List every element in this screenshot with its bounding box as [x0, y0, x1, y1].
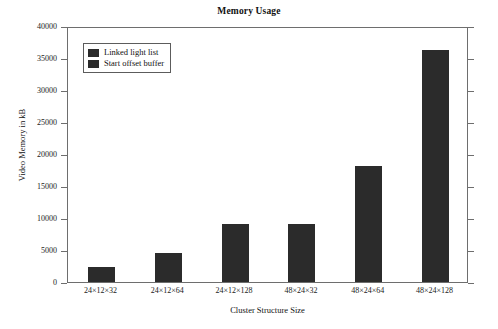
- memory-usage-chart-figure: Memory Usage Video Memory in kB Cluster …: [0, 0, 498, 329]
- y-tick-label: 30000: [37, 87, 57, 95]
- legend-item: Start offset buffer: [88, 58, 164, 69]
- y-axis-title: Video Memory in kB: [17, 65, 27, 225]
- x-tick-label: 48×24×32: [284, 287, 317, 295]
- x-axis-title: Cluster Structure Size: [67, 305, 468, 315]
- x-tick-label: 24×12×128: [216, 287, 253, 295]
- x-tick-label: 24×12×32: [84, 287, 117, 295]
- y-tick-mark-right: [468, 187, 474, 188]
- y-tick-label: 35000: [37, 55, 57, 63]
- y-tick-label: 20000: [37, 151, 57, 159]
- legend-item: Linked light list: [88, 47, 164, 58]
- y-tick-mark-right: [468, 251, 474, 252]
- y-tick-mark-right: [468, 155, 474, 156]
- y-tick-label: 40000: [37, 23, 57, 31]
- y-tick-label: 10000: [37, 215, 57, 223]
- y-tick-mark-right: [468, 123, 474, 124]
- legend-swatch-icon: [88, 49, 99, 57]
- bar: [155, 253, 182, 282]
- y-tick-label: 25000: [37, 119, 57, 127]
- y-tick-mark-right: [468, 59, 474, 60]
- bar: [222, 224, 249, 282]
- y-tick-mark-right: [468, 27, 474, 28]
- legend-swatch-icon: [88, 60, 99, 68]
- legend-label: Linked light list: [104, 48, 158, 57]
- chart-legend: Linked light listStart offset buffer: [83, 43, 171, 73]
- bar: [88, 267, 115, 282]
- x-tick-label: 24×12×64: [151, 287, 184, 295]
- y-tick-label: 5000: [41, 247, 57, 255]
- bar: [422, 50, 449, 282]
- y-tick-mark-right: [468, 283, 474, 284]
- legend-label: Start offset buffer: [104, 59, 164, 68]
- x-tick-label: 48×24×64: [351, 287, 384, 295]
- y-tick-label: 15000: [37, 183, 57, 191]
- bar: [288, 224, 315, 282]
- y-tick-mark: [61, 283, 67, 284]
- y-tick-mark-right: [468, 91, 474, 92]
- chart-title: Memory Usage: [0, 6, 498, 16]
- x-tick-label: 48×24×128: [416, 287, 453, 295]
- bar: [355, 166, 382, 282]
- y-tick-label: 0: [53, 279, 57, 287]
- y-tick-mark-right: [468, 219, 474, 220]
